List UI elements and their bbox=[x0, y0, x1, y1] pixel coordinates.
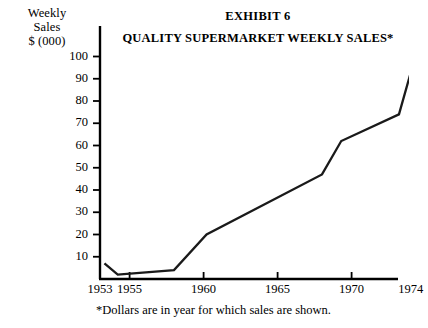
x-tick-label: 1965 bbox=[256, 283, 300, 296]
sales-data-line bbox=[104, 57, 409, 275]
y-tick-label: 40 bbox=[58, 183, 88, 196]
y-tick-label: 80 bbox=[58, 94, 88, 107]
y-tick-label: 20 bbox=[58, 228, 88, 241]
y-tick-label: 10 bbox=[58, 250, 88, 263]
y-tick-label: 60 bbox=[58, 139, 88, 152]
x-tick-label: 1960 bbox=[182, 283, 226, 296]
y-tick-label: 30 bbox=[58, 205, 88, 218]
y-tick-label: 70 bbox=[58, 116, 88, 129]
footnote: *Dollars are in year for which sales are… bbox=[96, 303, 331, 318]
y-tick-label: 90 bbox=[58, 72, 88, 85]
x-tick-label: 1970 bbox=[330, 283, 374, 296]
x-tick-label: 1955 bbox=[108, 283, 152, 296]
x-tick-label: 1974 bbox=[389, 283, 428, 296]
y-tick-label: 100 bbox=[58, 50, 88, 63]
y-tick-label: 50 bbox=[58, 161, 88, 174]
axis-lines bbox=[99, 26, 398, 279]
